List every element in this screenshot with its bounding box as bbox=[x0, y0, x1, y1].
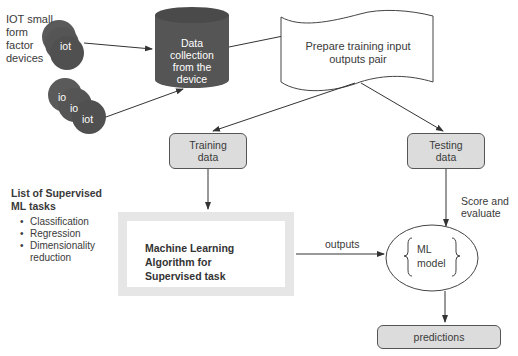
text-line: model bbox=[417, 256, 446, 270]
text-line: Testing bbox=[429, 139, 462, 151]
prepare-pairs-label: Prepare training input outputs pair bbox=[290, 40, 426, 66]
text-line: Machine Learning bbox=[145, 241, 234, 255]
text-line: List of Supervised bbox=[11, 187, 102, 200]
text-line: ML tasks bbox=[11, 200, 102, 213]
iot-device-label: io bbox=[70, 102, 78, 114]
iot-label-line: IOT small bbox=[6, 13, 53, 26]
text-line: data bbox=[436, 151, 456, 163]
iot-label-line: devices bbox=[6, 52, 53, 65]
outputs-label: outputs bbox=[325, 238, 359, 250]
text-line: ML bbox=[417, 242, 446, 256]
ml-model-label: ML model bbox=[417, 242, 446, 270]
testing-data-box: Testing data bbox=[407, 133, 485, 169]
ml-algorithm-label: Machine Learning Algorithm for Supervise… bbox=[145, 241, 234, 283]
text-line: Supervised task bbox=[145, 269, 234, 283]
text-line: outputs pair bbox=[290, 53, 426, 66]
text-line: Algorithm for bbox=[145, 255, 234, 269]
iot-devices-label: IOT small form factor devices bbox=[6, 13, 53, 65]
iot-label-line: form bbox=[6, 26, 53, 39]
list-item: Dimensionality bbox=[20, 240, 95, 252]
text-line: Training bbox=[189, 139, 227, 151]
predictions-box: predictions bbox=[377, 325, 501, 349]
diagram-connectors bbox=[0, 0, 518, 356]
tasks-list-title: List of Supervised ML tasks bbox=[11, 187, 102, 213]
list-item: reduction bbox=[20, 252, 95, 264]
text-line: Score and bbox=[461, 195, 509, 207]
text-line: Prepare training input bbox=[290, 40, 426, 53]
text-line: from the bbox=[160, 61, 224, 73]
tasks-list: Classification Regression Dimensionality… bbox=[20, 216, 95, 264]
list-item: Classification bbox=[20, 216, 95, 228]
training-data-box: Training data bbox=[169, 133, 247, 169]
text-line: evaluate bbox=[461, 207, 509, 219]
list-item: Regression bbox=[20, 228, 95, 240]
text-line: Data bbox=[160, 37, 224, 49]
iot-label-line: factor bbox=[6, 39, 53, 52]
text-line: device bbox=[160, 73, 224, 85]
text-line: data bbox=[198, 151, 218, 163]
iot-device-label: iot bbox=[60, 40, 71, 52]
ml-algorithm-box: Machine Learning Algorithm for Supervise… bbox=[118, 212, 294, 296]
iot-device-label: iot bbox=[82, 113, 93, 125]
data-collection-label: Data collection from the device bbox=[160, 37, 224, 85]
score-evaluate-label: Score and evaluate bbox=[461, 195, 509, 219]
iot-device-label: io bbox=[58, 91, 66, 103]
text-line: collection bbox=[160, 49, 224, 61]
